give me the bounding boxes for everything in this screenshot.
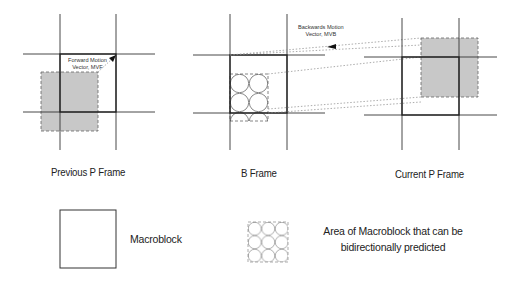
backward-vector-label-line2: Vector, MVB: [298, 31, 344, 38]
backward-arrow-head: [327, 44, 336, 49]
current-p-frame-grid: [364, 18, 497, 150]
legend-macroblock-swatch: [60, 210, 116, 268]
forward-vector-label-line1: Forward Motion: [68, 57, 107, 64]
backward-vector-label: Backwards Motion Vector, MVB: [298, 24, 344, 37]
previous-p-frame-label: Previous P Frame: [51, 166, 125, 178]
legend-bidirectional-line1: Area of Macroblock that can be: [320, 223, 466, 239]
legend-bidirectional-line2: bidirectionally predicted: [320, 239, 466, 255]
previous-p-frame-grid: [23, 14, 155, 150]
forward-arrow-head: [109, 55, 116, 62]
backward-vector-label-line1: Backwards Motion: [298, 24, 344, 31]
current-shaded-macroblock: [421, 38, 478, 97]
legend-bidirectional-label: Area of Macroblock that can be bidirecti…: [320, 223, 466, 255]
forward-vector-label: Forward Motion Vector, MVF: [68, 57, 107, 70]
b-frame-label: B Frame: [241, 167, 277, 179]
forward-vector-label-line2: Vector, MVF: [68, 64, 107, 71]
previous-shaded-macroblock: [41, 72, 98, 131]
legend-macroblock-label: Macroblock: [130, 233, 182, 245]
current-p-frame-label: Current P Frame: [395, 168, 464, 180]
